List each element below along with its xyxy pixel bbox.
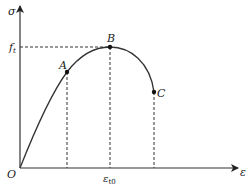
ft-tick-label: ft (8, 41, 16, 55)
ft-subscript: t (13, 47, 16, 55)
point-b-marker (108, 45, 112, 49)
stress-strain-curve (20, 47, 154, 168)
origin-label: O (7, 168, 16, 181)
x-axis-label: ε (240, 166, 246, 179)
point-b-label: B (106, 32, 115, 45)
point-c-label: C (157, 87, 166, 100)
point-c-marker (152, 90, 156, 94)
stress-strain-diagram: σ ε O ft εt0 A B C (0, 0, 248, 185)
eps-t0-tick-label: εt0 (103, 173, 116, 185)
point-a-label: A (58, 59, 67, 72)
y-axis-label: σ (8, 5, 16, 18)
eps-subscript: t0 (108, 178, 115, 185)
